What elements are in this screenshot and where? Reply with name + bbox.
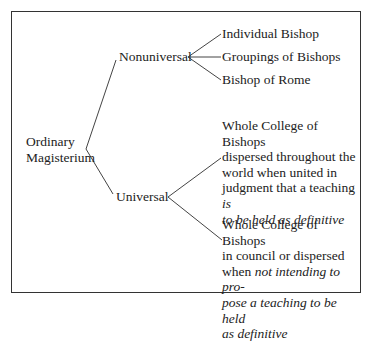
text-line: dispersed throughout the [222,149,362,165]
text-line: judgment that a teaching is [222,180,362,211]
universal-nondefinitive-block: Whole College of Bishops in council or d… [222,217,362,342]
text-line: as definitive [222,326,362,342]
text-line: world when united in [222,165,362,181]
root-node: Ordinary Magisterium [26,134,95,166]
universal-node: Universal [116,189,168,205]
nonuniversal-node: Nonuniversal [119,49,192,65]
text-line: pose a teaching to be held [222,295,362,326]
leaf-groupings-of-bishops: Groupings of Bishops [222,49,341,65]
leaf-bishop-of-rome: Bishop of Rome [222,72,311,88]
text-line: in council or dispersed [222,248,362,264]
text-line: Whole College of Bishops [222,217,362,248]
leaf-individual-bishop: Individual Bishop [222,26,319,42]
text-line: Whole College of Bishops [222,118,362,149]
universal-definitive-block: Whole College of Bishops dispersed throu… [222,118,362,227]
text-line: when not intending to pro- [222,264,362,295]
root-line2: Magisterium [26,150,95,166]
root-line1: Ordinary [26,134,95,150]
